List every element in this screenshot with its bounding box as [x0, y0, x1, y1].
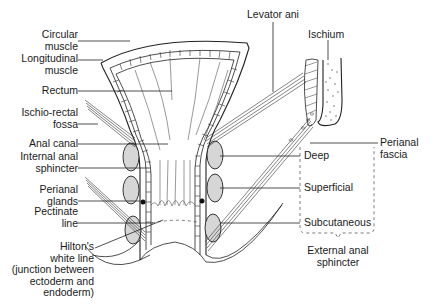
anal-valves: [151, 201, 195, 207]
label-levator-ani: Levator ani: [247, 9, 299, 21]
obturator-internus: [304, 59, 318, 126]
label-internal-anal-sphincter: Internal analsphincter: [0, 151, 78, 174]
ischium-stipple: [325, 63, 338, 120]
label-circular-muscle: Circularmuscle: [18, 29, 78, 52]
label-perianal-glands: Perianalglands: [10, 184, 78, 207]
label-ischio-rectal-fossa: Ischio-rectalfossa: [5, 107, 78, 130]
label-superficial: Superficial: [304, 182, 353, 194]
label-anal-canal: Anal canal: [5, 138, 78, 150]
label-pectinate-line: Pectinateline: [10, 206, 78, 229]
label-longitudinal-muscle: Longitudinalmuscle: [10, 53, 78, 76]
label-external-anal-sphincter: External analsphincter: [300, 245, 376, 268]
label-hiltons-white-line: Hilton'swhite line(junction betweenectod…: [0, 241, 94, 299]
deep-sphincter-left: [123, 143, 139, 171]
label-rectum: Rectum: [18, 85, 78, 97]
leader-lines-left: [78, 41, 172, 248]
subcutaneous-sphincter-right: [205, 214, 221, 242]
label-subcutaneous: Subcutaneous: [304, 217, 371, 229]
perianal-gland-right: [200, 199, 205, 204]
leader-lines-right: [220, 22, 378, 223]
superficial-sphincter-left: [123, 176, 139, 204]
label-deep: Deep: [304, 150, 329, 162]
obturator-hatching: [305, 62, 317, 114]
perianal-gland-left: [141, 200, 146, 205]
label-perianal-fascia: Perianalfascia: [380, 137, 419, 160]
label-ischium: Ischium: [308, 29, 344, 41]
